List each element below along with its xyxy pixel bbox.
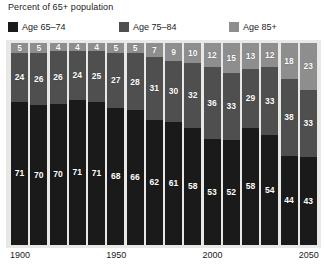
bar-segment: 25 — [88, 51, 105, 102]
bar-segment-value: 68 — [111, 172, 120, 181]
legend-label-age-85-plus: Age 85+ — [243, 22, 277, 32]
bar-2050[interactable]: 233343 — [300, 43, 317, 245]
bar-segment: 70 — [30, 105, 47, 245]
bar-segment: 43 — [300, 157, 317, 245]
bar-segment-value: 70 — [34, 171, 43, 180]
bar-segment: 38 — [281, 79, 298, 156]
bar-segment-value: 26 — [53, 73, 62, 82]
chart-legend: Age 65–74 Age 75–84 Age 85+ — [8, 20, 320, 33]
bar-1990[interactable]: 103258 — [184, 43, 201, 245]
bar-2010[interactable]: 153352 — [223, 43, 240, 245]
bar-segment-value: 43 — [304, 197, 313, 206]
bar-segment-value: 70 — [53, 170, 62, 179]
bar-segment: 58 — [184, 128, 201, 245]
bar-segment: 9 — [165, 43, 182, 61]
bar-segment-value: 52 — [227, 188, 236, 197]
x-axis-tick-1950: 1950 — [106, 250, 126, 260]
bar-segment-value: 71 — [92, 169, 101, 178]
bar-segment-value: 24 — [15, 73, 24, 82]
bar-segment: 36 — [204, 67, 221, 139]
chart-title: Percent of 65+ population — [8, 2, 113, 12]
bar-segment: 31 — [146, 57, 163, 120]
bar-1920[interactable]: 42670 — [50, 43, 67, 245]
bar-1930[interactable]: 42471 — [69, 43, 86, 245]
bar-segment-value: 33 — [304, 119, 313, 128]
bar-segment: 68 — [107, 108, 124, 245]
bar-segment-value: 12 — [265, 51, 274, 60]
bar-segment: 29 — [242, 69, 259, 128]
x-axis: 1900195020002050 — [0, 250, 326, 266]
bar-segment: 62 — [146, 120, 163, 245]
bar-segment-value: 28 — [130, 78, 139, 87]
bar-2020[interactable]: 132958 — [242, 43, 259, 245]
bar-segment-value: 4 — [75, 43, 80, 51]
bar-segment-value: 18 — [284, 57, 293, 66]
bar-segment: 12 — [261, 43, 278, 67]
bar-segment: 44 — [281, 156, 298, 245]
legend-swatch-age-65-74 — [8, 22, 18, 32]
bar-segment-value: 23 — [304, 62, 313, 71]
bar-segment-value: 9 — [171, 48, 176, 57]
bar-segment-value: 61 — [169, 179, 178, 188]
bar-segment: 4 — [50, 43, 67, 51]
bar-segment: 71 — [11, 102, 28, 245]
bar-1910[interactable]: 52670 — [30, 43, 47, 245]
bar-segment-value: 24 — [73, 71, 82, 80]
bar-segment-value: 5 — [17, 44, 22, 53]
bar-segment-value: 4 — [94, 43, 99, 51]
legend-item-age-75-84: Age 75–84 — [119, 20, 177, 33]
bar-1980[interactable]: 93061 — [165, 43, 182, 245]
bar-segment: 33 — [223, 73, 240, 140]
x-axis-tick-2000: 2000 — [203, 250, 223, 260]
bar-segment: 13 — [242, 43, 259, 69]
bar-2000[interactable]: 123653 — [204, 43, 221, 245]
bar-segment-value: 27 — [111, 76, 120, 85]
bar-segment: 7 — [146, 43, 163, 57]
bar-segment: 12 — [204, 43, 221, 67]
bar-segment: 26 — [30, 53, 47, 105]
bar-segment-value: 66 — [130, 173, 139, 182]
bar-segment: 18 — [281, 43, 298, 79]
bar-segment-value: 4 — [56, 43, 61, 51]
legend-label-age-75-84: Age 75–84 — [133, 22, 177, 32]
bar-segment: 5 — [30, 43, 47, 53]
bar-segment-value: 38 — [284, 113, 293, 122]
bar-segment: 70 — [50, 104, 67, 245]
bar-segment: 61 — [165, 122, 182, 245]
bar-1960[interactable]: 52866 — [127, 43, 144, 245]
bar-2040[interactable]: 183844 — [281, 43, 298, 245]
bar-segment-value: 44 — [284, 196, 293, 205]
legend-label-age-65-74: Age 65–74 — [22, 22, 66, 32]
bar-1970[interactable]: 73162 — [146, 43, 163, 245]
bar-segment-value: 53 — [207, 188, 216, 197]
bar-1900[interactable]: 52471 — [11, 43, 28, 245]
bar-segment: 53 — [204, 139, 221, 245]
bar-segment-value: 15 — [227, 54, 236, 63]
bar-segment-value: 10 — [188, 49, 197, 58]
bar-segment: 71 — [69, 100, 86, 245]
bar-1950[interactable]: 52768 — [107, 43, 124, 245]
bar-segment: 4 — [88, 43, 105, 51]
bar-segment: 24 — [11, 53, 28, 101]
bar-segment-value: 5 — [133, 44, 138, 53]
bar-segment-value: 25 — [92, 72, 101, 81]
bar-segment-value: 7 — [152, 46, 157, 55]
bar-segment-value: 5 — [113, 44, 118, 53]
bar-segment: 4 — [69, 43, 86, 51]
bar-segment-value: 32 — [188, 91, 197, 100]
bar-segment: 52 — [223, 140, 240, 245]
legend-swatch-age-75-84 — [119, 22, 129, 32]
bar-segment-value: 13 — [246, 52, 255, 61]
bar-segment-value: 30 — [169, 87, 178, 96]
bar-2030[interactable]: 123354 — [261, 43, 278, 245]
legend-swatch-age-85-plus — [229, 22, 239, 32]
bar-segment: 10 — [184, 43, 201, 63]
bar-segment-value: 58 — [188, 182, 197, 191]
bar-segment-value: 71 — [15, 169, 24, 178]
bar-segment-value: 33 — [227, 102, 236, 111]
bar-segment-value: 29 — [246, 94, 255, 103]
plot-panel: 5247152670426704247142571527685286673162… — [6, 40, 321, 248]
bar-1940[interactable]: 42571 — [88, 43, 105, 245]
bar-segment: 23 — [300, 43, 317, 90]
bar-segment: 27 — [107, 53, 124, 108]
